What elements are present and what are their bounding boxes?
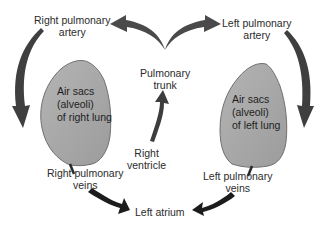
arrow-right-artery-to-lung [12, 28, 44, 128]
arrow-left-artery-to-lung [284, 30, 314, 128]
label-right-lung-air-sacs: Air sacs (alveoli) of right lung [57, 85, 112, 124]
arrow-right-veins-to-atrium [88, 188, 130, 214]
label-left-pulmonary-veins: Left pulmonary veins [203, 170, 272, 194]
label-left-lung-air-sacs: Air sacs (alveoli) of left lung [232, 93, 280, 132]
arrow-ventricle-to-trunk [150, 90, 169, 142]
arrow-left-veins-to-atrium [192, 192, 235, 216]
label-right-pulmonary-artery: Right pulmonary artery [34, 14, 110, 38]
label-pulmonary-trunk: Pulmonary trunk [140, 67, 190, 91]
label-left-pulmonary-artery: Left pulmonary artery [222, 17, 291, 41]
label-left-atrium: Left atrium [135, 206, 185, 218]
label-right-pulmonary-veins: Right pulmonary veins [47, 167, 123, 191]
arrow-trunk-to-left-artery [165, 15, 221, 50]
arrow-trunk-to-right-artery [110, 15, 165, 50]
label-right-ventricle: Right ventricle [127, 147, 166, 171]
